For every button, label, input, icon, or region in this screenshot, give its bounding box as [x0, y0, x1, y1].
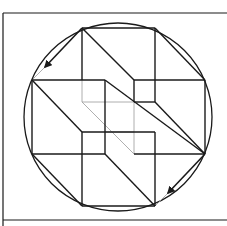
diagram-canvas [0, 0, 227, 226]
arrow-upper-left [45, 28, 82, 67]
figure-edges [32, 28, 205, 206]
geometric-diagram [0, 0, 227, 226]
frame [3, 13, 227, 226]
arrow-lower-right [168, 154, 205, 193]
outer-circle [24, 23, 212, 211]
